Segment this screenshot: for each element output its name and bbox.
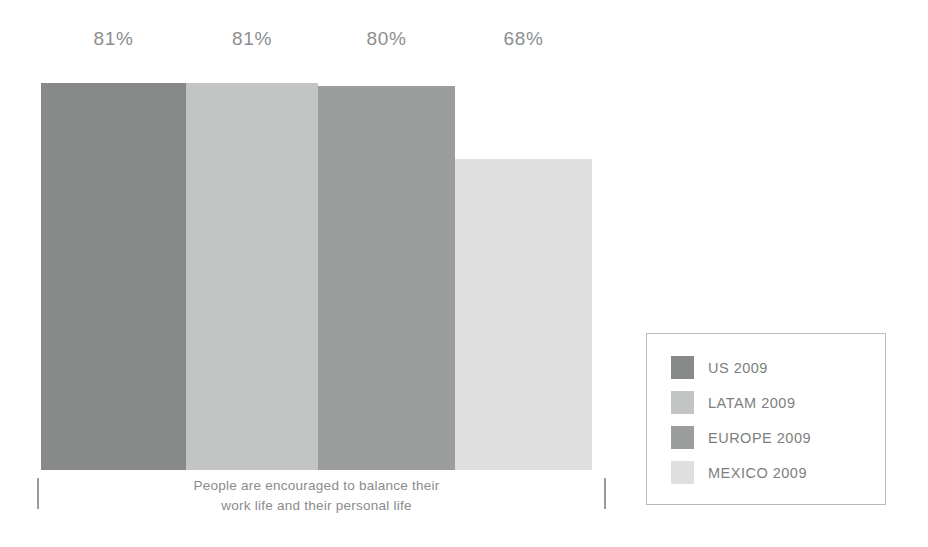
legend-item-mexico: MEXICO 2009 bbox=[671, 455, 877, 490]
bar-value-label-us: 81% bbox=[41, 28, 186, 50]
legend-label-mexico: MEXICO 2009 bbox=[708, 465, 807, 481]
legend-swatch-us-icon bbox=[671, 356, 694, 379]
bar-value-label-mexico: 68% bbox=[455, 28, 592, 50]
legend-label-latam: LATAM 2009 bbox=[708, 395, 795, 411]
axis-caption-line-1: People are encouraged to balance their bbox=[41, 476, 592, 496]
axis-caption-line-2: work life and their personal life bbox=[41, 496, 592, 516]
bar-europe bbox=[318, 86, 455, 470]
axis-tick-right bbox=[604, 478, 606, 509]
legend-item-latam: LATAM 2009 bbox=[671, 385, 877, 420]
legend-item-europe: EUROPE 2009 bbox=[671, 420, 877, 455]
axis-tick-left bbox=[37, 478, 39, 509]
bar-mexico bbox=[455, 159, 592, 470]
bar-chart: 81% 81% 80% 68% People are encouraged to… bbox=[0, 0, 928, 547]
bar-latam bbox=[186, 83, 318, 470]
legend-label-us: US 2009 bbox=[708, 360, 768, 376]
legend-swatch-mexico-icon bbox=[671, 461, 694, 484]
legend-list: US 2009 LATAM 2009 EUROPE 2009 MEXICO 20… bbox=[671, 350, 877, 490]
axis-caption: People are encouraged to balance their w… bbox=[41, 476, 592, 516]
bar-value-label-latam: 81% bbox=[186, 28, 318, 50]
plot-area bbox=[41, 60, 592, 470]
legend-item-us: US 2009 bbox=[671, 350, 877, 385]
legend: US 2009 LATAM 2009 EUROPE 2009 MEXICO 20… bbox=[646, 333, 886, 505]
legend-label-europe: EUROPE 2009 bbox=[708, 430, 811, 446]
legend-swatch-europe-icon bbox=[671, 426, 694, 449]
bar-value-label-europe: 80% bbox=[318, 28, 455, 50]
bar-us bbox=[41, 83, 186, 470]
legend-swatch-latam-icon bbox=[671, 391, 694, 414]
